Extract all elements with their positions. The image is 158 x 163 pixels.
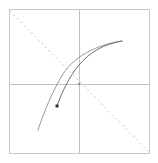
plot-figure — [0, 0, 158, 163]
plot-canvas — [0, 0, 158, 163]
inner-curve-endpoint-marker — [56, 105, 59, 108]
origin-point — [78, 83, 80, 85]
